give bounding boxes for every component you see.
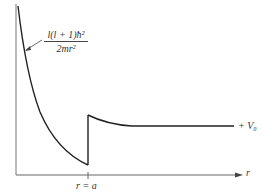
x-axis-arrow-icon: [235, 173, 243, 178]
centrifugal-term-label: l(l + 1)ħ² 2mr²: [44, 29, 88, 54]
tick-label-r-a: r = a: [76, 180, 97, 191]
v0-label: + V₀: [238, 120, 257, 131]
fraction-bar: [44, 41, 88, 42]
fraction-denominator: 2mr²: [44, 43, 88, 54]
fraction-numerator: l(l + 1)ħ²: [44, 29, 88, 40]
x-axis-label: r: [246, 167, 250, 178]
diagram-canvas: l(l + 1)ħ² 2mr² + V₀ r r = a: [0, 0, 271, 196]
v0-level-curve: [88, 115, 234, 126]
pointer-arrow-icon: [25, 46, 31, 51]
potential-plot: [0, 0, 271, 196]
